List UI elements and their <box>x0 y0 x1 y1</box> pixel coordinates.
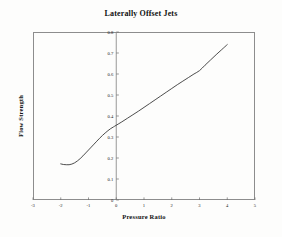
x-axis-label: Pressure Ratio <box>33 213 255 220</box>
x-tick-label: 3 <box>198 203 200 208</box>
y-tick-label: 0.6 <box>98 72 113 77</box>
x-tick-label: 0 <box>115 203 117 208</box>
y-axis-label-container: Flow Strength <box>14 32 26 200</box>
y-tick-label: 0.7 <box>98 51 113 56</box>
x-tick-label: 2 <box>171 203 173 208</box>
y-tick-label: 0.8 <box>98 30 113 35</box>
x-tick-label: 1 <box>143 203 145 208</box>
x-tick-label: 4 <box>226 203 228 208</box>
y-tick-label: 0.3 <box>98 135 113 140</box>
y-tick-label: 0 <box>98 198 113 203</box>
y-tick-label: 0.4 <box>98 114 113 119</box>
x-tick-label: -1 <box>87 203 91 208</box>
y-axis-label: Flow Strength <box>17 95 24 137</box>
y-tick-label: 0.1 <box>98 177 113 182</box>
y-tick-label: 0.5 <box>98 93 113 98</box>
x-tick-label: -2 <box>59 203 63 208</box>
plot-area: 00.10.20.30.40.50.60.70.8 -3-2-1012345 <box>33 32 255 200</box>
tick-marks <box>33 32 255 200</box>
data-series-group <box>61 45 228 165</box>
chart-figure: Laterally Offset Jets Flow Strength 00.1… <box>0 0 282 237</box>
data-line <box>61 45 228 165</box>
chart-title: Laterally Offset Jets <box>0 9 282 18</box>
x-tick-label: -3 <box>31 203 35 208</box>
plot-canvas <box>33 32 255 200</box>
x-tick-label: 5 <box>254 203 256 208</box>
y-tick-label: 0.2 <box>98 156 113 161</box>
